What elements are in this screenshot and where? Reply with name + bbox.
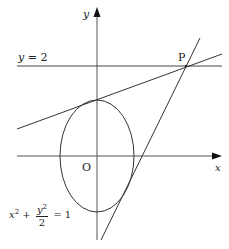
- eq-denominator: 2: [39, 217, 45, 228]
- x-axis-arrow-icon: [212, 153, 222, 160]
- ellipse-equation: x2 + y2 2 = 1: [9, 204, 71, 228]
- y-axis-arrow-icon: [94, 7, 101, 17]
- eq-x-exp: 2: [15, 208, 19, 216]
- eq-equals: =: [53, 209, 61, 220]
- eq-fraction: y2 2: [36, 204, 48, 228]
- origin-label: O: [82, 162, 91, 173]
- eq-rhs: 1: [65, 209, 71, 220]
- x-axis-label: x: [215, 163, 221, 173]
- label-two: 2: [40, 51, 47, 64]
- point-p-label: P: [178, 52, 185, 63]
- eq-plus: +: [22, 209, 30, 220]
- label-y-var: y: [18, 51, 24, 64]
- eq-y-exp: 2: [43, 203, 47, 211]
- tangent-line-2: [101, 38, 200, 240]
- y-axis-label: y: [83, 9, 89, 20]
- line-y-equals-2-label: y = 2: [18, 52, 47, 63]
- tangent-line-1: [17, 54, 222, 129]
- point-p-marker: [185, 65, 187, 67]
- label-eq: =: [28, 51, 37, 64]
